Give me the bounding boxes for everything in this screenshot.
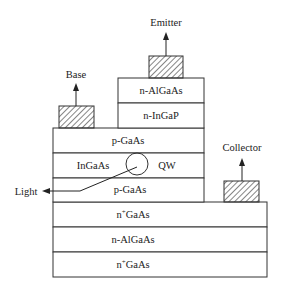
emitter-contact-pad	[149, 56, 183, 78]
emitter-label: Emitter	[150, 17, 182, 28]
base-contact-pad	[59, 106, 94, 128]
collector-contact-pad	[224, 181, 259, 202]
collector-contact: Collector	[222, 142, 262, 202]
base-contact: Base	[59, 69, 94, 128]
layer-n-plus-gaas-bottom	[53, 252, 267, 277]
light-label: Light	[15, 186, 38, 197]
label-qw: QW	[158, 160, 176, 171]
label-p-gaas-lower: p-GaAs	[114, 184, 147, 195]
label-n-plus-gaas-bottom: n+GaAs	[116, 258, 149, 270]
label-p-gaas-upper: p-GaAs	[112, 135, 145, 146]
base-label: Base	[66, 69, 87, 80]
label-ingaas: InGaAs	[77, 160, 110, 171]
collector-stack: n+GaAs n-AlGaAs n+GaAs	[53, 202, 267, 277]
collector-label: Collector	[222, 142, 262, 153]
label-n-plus-gaas-top: n+GaAs	[116, 208, 149, 220]
layer-n-algaas-lower	[53, 227, 267, 252]
emitter-contact: Emitter	[149, 17, 183, 78]
label-n-algaas-emitter: n-AlGaAs	[139, 85, 182, 96]
layer-n-plus-gaas-top	[53, 202, 267, 227]
label-n-ingap: n-InGaP	[143, 110, 179, 121]
emitter-stack: n-AlGaAs n-InGaP	[118, 78, 204, 128]
hbt-laser-diagram: n+GaAs n-AlGaAs n+GaAs p-GaAs InGaAs QW …	[0, 0, 283, 293]
label-n-algaas-lower: n-AlGaAs	[111, 234, 154, 245]
